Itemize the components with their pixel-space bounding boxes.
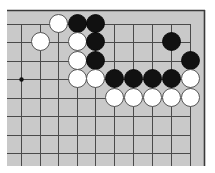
- black-stone[interactable]: [87, 52, 105, 70]
- black-stone[interactable]: [144, 70, 162, 88]
- star-points: [19, 77, 23, 81]
- white-stone[interactable]: [106, 89, 124, 107]
- black-stone[interactable]: [163, 70, 181, 88]
- white-stone[interactable]: [87, 70, 105, 88]
- black-stone[interactable]: [125, 70, 143, 88]
- white-stone[interactable]: [69, 33, 87, 51]
- white-stone[interactable]: [163, 89, 181, 107]
- white-stone[interactable]: [125, 89, 143, 107]
- black-stone[interactable]: [69, 15, 87, 33]
- white-stone[interactable]: [182, 89, 200, 107]
- white-stone[interactable]: [50, 15, 68, 33]
- black-stone[interactable]: [87, 33, 105, 51]
- white-stone[interactable]: [69, 70, 87, 88]
- white-stone[interactable]: [32, 33, 50, 51]
- black-stone[interactable]: [106, 70, 124, 88]
- black-stone[interactable]: [87, 15, 105, 33]
- white-stone[interactable]: [182, 70, 200, 88]
- star-point: [19, 77, 23, 81]
- black-stone[interactable]: [182, 52, 200, 70]
- go-board[interactable]: [0, 0, 215, 173]
- black-stone[interactable]: [163, 33, 181, 51]
- white-stone[interactable]: [69, 52, 87, 70]
- white-stone[interactable]: [144, 89, 162, 107]
